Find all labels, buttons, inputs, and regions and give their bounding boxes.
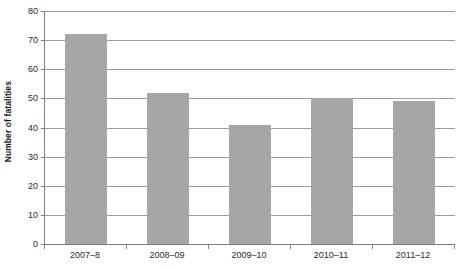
y-axis-tick-labels: 01020304050607080 <box>16 0 42 250</box>
y-tick-label: 70 <box>28 36 38 45</box>
y-tick-label: 60 <box>28 65 38 74</box>
bar <box>65 34 107 244</box>
x-tick-label: 2010–11 <box>314 250 348 261</box>
x-tick-mark <box>290 245 291 249</box>
bar <box>147 93 189 244</box>
y-tick-label: 40 <box>28 123 38 132</box>
y-tick-label: 80 <box>28 7 38 16</box>
bar <box>229 125 271 244</box>
x-tick-label: 2011–12 <box>396 250 430 261</box>
y-tick-label: 50 <box>28 94 38 103</box>
plot-area <box>44 11 455 244</box>
y-axis-title-text: Number of fatalities <box>3 81 13 162</box>
bar-chart: Number of fatalities 01020304050607080 2… <box>0 0 456 270</box>
x-tick-mark <box>126 245 127 249</box>
y-tick-label: 0 <box>33 240 38 249</box>
bars-group <box>45 11 455 244</box>
x-tick-label: 2009–10 <box>231 250 266 261</box>
x-axis-line <box>44 244 455 245</box>
x-tick-mark <box>372 245 373 249</box>
x-tick-mark <box>454 245 455 249</box>
x-tick-mark <box>44 245 45 249</box>
x-tick-label: 2007–8 <box>70 250 100 261</box>
x-tick-label: 2008–09 <box>149 250 184 261</box>
bar <box>393 101 435 244</box>
y-tick-label: 10 <box>28 210 38 219</box>
y-axis-title: Number of fatalities <box>0 0 16 244</box>
x-axis-tick-labels: 2007–82008–092009–102010–112011–12 <box>44 250 454 270</box>
bar <box>311 98 353 244</box>
x-tick-mark <box>208 245 209 249</box>
y-tick-label: 20 <box>28 181 38 190</box>
y-tick-label: 30 <box>28 152 38 161</box>
